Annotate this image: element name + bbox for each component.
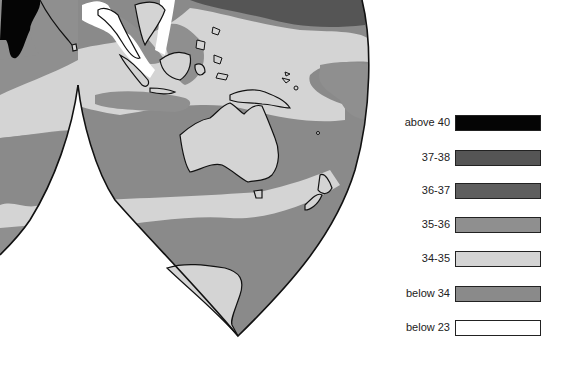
sri-lanka: [72, 44, 77, 51]
legend-label: above 40: [405, 116, 450, 128]
legend-swatch: [455, 217, 541, 233]
legend-item: 35-36: [396, 216, 546, 236]
legend-item: 37-38: [396, 149, 546, 169]
legend-label: below 34: [406, 287, 450, 299]
legend-item: above 40: [396, 114, 546, 134]
legend-label: 34-35: [422, 252, 450, 264]
legend-swatch: [455, 150, 541, 166]
sulawesi: [195, 64, 205, 75]
legend-swatch: [455, 286, 541, 302]
legend-label: 36-37: [422, 184, 450, 196]
legend-label: 35-36: [422, 218, 450, 230]
legend-item: below 23: [396, 319, 546, 339]
legend-label: below 23: [406, 321, 450, 333]
legend-swatch: [455, 115, 541, 131]
legend-swatch: [455, 251, 541, 267]
tasmania: [254, 190, 262, 198]
legend-item: 36-37: [396, 182, 546, 202]
antarctica: [167, 265, 242, 336]
legend-swatch: [455, 183, 541, 199]
legend-item: 34-35: [396, 250, 546, 270]
legend-item: below 34: [396, 285, 546, 305]
legend-swatch: [455, 320, 541, 336]
legend-label: 37-38: [422, 151, 450, 163]
